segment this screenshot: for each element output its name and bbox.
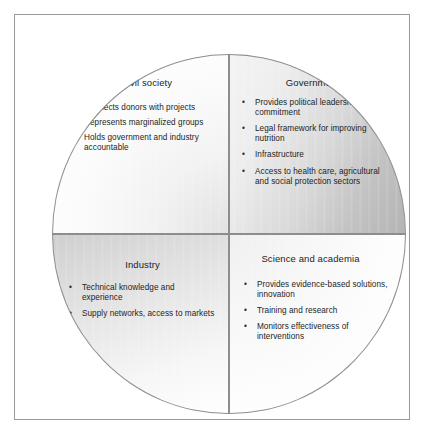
bullet-text: Monitors effectiveness of interventions	[244, 322, 389, 342]
bullet-dot-icon: •	[242, 124, 252, 134]
list-item: • Provides political leadership, commitm…	[242, 98, 391, 118]
diagram-figure: Civil society • Connects donors with pro…	[0, 0, 424, 438]
bullet-list-science-and-academia: • Provides evidence-based solutions, inn…	[244, 280, 389, 343]
bullet-dot-icon: •	[244, 322, 254, 332]
bullet-dot-icon: •	[69, 283, 79, 293]
quadrant-civil-society[interactable]: Civil society • Connects donors with pro…	[52, 54, 229, 234]
bullet-dot-icon: •	[71, 118, 81, 128]
quadrant-industry[interactable]: Industry • Technical knowledge and exper…	[52, 234, 229, 414]
bullet-text: Provides evidence-based solutions, innov…	[244, 280, 389, 300]
bullet-list-civil-society: • Connects donors with projects • Repres…	[71, 103, 214, 154]
list-item: • Infrastructure	[242, 150, 391, 160]
quadrant-content-industry: Industry • Technical knowledge and exper…	[53, 235, 228, 413]
list-item: • Access to health care, agricultural an…	[242, 167, 391, 187]
bullet-text: Provides political leadership, commitmen…	[242, 98, 391, 118]
bullet-list-industry: • Technical knowledge and experience • S…	[69, 283, 216, 320]
bullet-dot-icon: •	[71, 103, 81, 113]
quadrant-content-government: Government • Provides political leadersh…	[230, 55, 405, 233]
quadrant-title-government: Government	[234, 77, 391, 89]
figure-frame: Civil society • Connects donors with pro…	[14, 14, 410, 420]
bullet-dot-icon: •	[69, 309, 79, 319]
quadrant-government[interactable]: Government • Provides political leadersh…	[229, 54, 406, 234]
bullet-list-government: • Provides political leadership, commitm…	[242, 98, 391, 187]
list-item: • Legal framework for improving nutritio…	[242, 124, 391, 144]
list-item: • Represents marginalized groups	[71, 118, 214, 128]
quadrant-content-science-and-academia: Science and academia • Provides evidence…	[230, 235, 405, 413]
bullet-dot-icon: •	[242, 150, 252, 160]
bullet-text: Represents marginalized groups	[71, 118, 214, 128]
circle-stage: Civil society • Connects donors with pro…	[52, 54, 406, 415]
bullet-text: Holds government and industry accountabl…	[71, 133, 214, 153]
bullet-text: Training and research	[244, 306, 389, 316]
quadrant-content-civil-society: Civil society • Connects donors with pro…	[53, 55, 228, 233]
bullet-text: Access to health care, agricultural and …	[242, 167, 391, 187]
bullet-text: Infrastructure	[242, 150, 391, 160]
list-item: • Supply networks, access to markets	[69, 309, 216, 319]
list-item: • Connects donors with projects	[71, 103, 214, 113]
list-item: • Holds government and industry accounta…	[71, 133, 214, 153]
list-item: • Training and research	[244, 306, 389, 316]
quadrant-science-and-academia[interactable]: Science and academia • Provides evidence…	[229, 234, 406, 414]
bullet-dot-icon: •	[242, 167, 252, 177]
bullet-text: Legal framework for improving nutrition	[242, 124, 391, 144]
list-item: • Provides evidence-based solutions, inn…	[244, 280, 389, 300]
bullet-text: Technical knowledge and experience	[69, 283, 216, 303]
bullet-text: Supply networks, access to markets	[69, 309, 216, 319]
bullet-dot-icon: •	[244, 280, 254, 290]
bullet-dot-icon: •	[71, 133, 81, 143]
bullet-dot-icon: •	[242, 98, 252, 108]
list-item: • Technical knowledge and experience	[69, 283, 216, 303]
bullet-dot-icon: •	[244, 306, 254, 316]
quadrant-title-civil-society: Civil society	[79, 77, 214, 89]
list-item: • Monitors effectiveness of intervention…	[244, 322, 389, 342]
quadrant-title-science-and-academia: Science and academia	[232, 253, 389, 265]
bullet-text: Connects donors with projects	[71, 103, 214, 113]
quadrant-title-industry: Industry	[69, 259, 216, 271]
